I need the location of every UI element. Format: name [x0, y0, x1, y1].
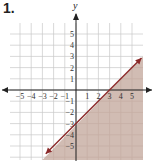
y-axis-label: y	[72, 0, 78, 11]
y-tick-label: 5	[70, 30, 74, 39]
y-tick-label: −1	[65, 97, 74, 106]
y-tick-label: 2	[70, 64, 74, 73]
inequality-graph: y−5−4−3−2−11234554321−1−2−3−4−5	[0, 0, 154, 161]
y-tick-label: 4	[70, 41, 74, 50]
y-tick-label: 1	[70, 75, 74, 84]
x-tick-label: 3	[108, 92, 112, 101]
y-tick-label: −2	[65, 108, 74, 117]
x-tick-label: 5	[130, 92, 134, 101]
x-tick-label: −4	[27, 92, 36, 101]
x-tick-label: 1	[85, 92, 89, 101]
x-tick-label: −5	[16, 92, 25, 101]
y-tick-label: 3	[70, 52, 74, 61]
x-tick-label: −2	[49, 92, 58, 101]
y-tick-label: −5	[65, 142, 74, 151]
x-axis-left-arrow-icon	[2, 87, 8, 93]
x-tick-label: 4	[119, 92, 123, 101]
y-axis-arrow-icon	[73, 13, 79, 20]
x-tick-label: −3	[38, 92, 47, 101]
x-axis-right-arrow-icon	[146, 87, 152, 93]
